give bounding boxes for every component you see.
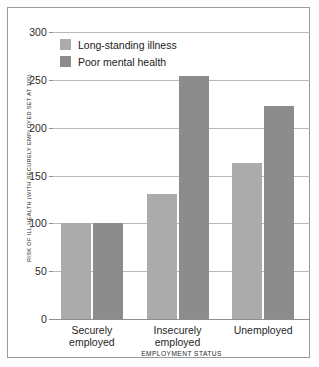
bar [93, 223, 123, 319]
x-axis-tick-label: Securely employed [69, 324, 115, 348]
legend-item-label: Long-standing illness [78, 39, 177, 51]
gridline [53, 319, 310, 320]
bar [147, 194, 177, 319]
legend-item-label: Poor mental health [78, 56, 166, 68]
x-axis-tick-label: Unemployed [234, 324, 293, 336]
bar [61, 223, 91, 319]
x-axis-tick-label: Insecurely employed [154, 324, 202, 348]
bar [179, 76, 209, 319]
plot-area: 050100150200250300 Securely employedInse… [53, 32, 310, 319]
chart-legend: Long-standing illness Poor mental health [60, 37, 177, 71]
y-axis-tick-label: 0 [41, 313, 47, 325]
bar [264, 106, 294, 319]
bars-group [53, 32, 310, 319]
legend-item-long-standing-illness: Long-standing illness [60, 37, 177, 52]
y-axis-tick-label: 50 [35, 265, 47, 277]
x-axis-title: EMPLOYMENT STATUS [53, 350, 310, 357]
y-axis-tick-mark [49, 319, 53, 320]
legend-swatch-icon [60, 39, 71, 50]
legend-swatch-icon [60, 56, 71, 67]
y-axis-title: RISK OF ILL HEALTH (WITH SECURELY EMPLOY… [26, 68, 32, 268]
legend-item-poor-mental-health: Poor mental health [60, 54, 177, 69]
chart-frame: 050100150200250300 Securely employedInse… [7, 7, 310, 358]
bar [232, 163, 262, 319]
chart-figure: 050100150200250300 Securely employedInse… [0, 0, 319, 367]
y-axis-tick-label: 300 [29, 26, 47, 38]
